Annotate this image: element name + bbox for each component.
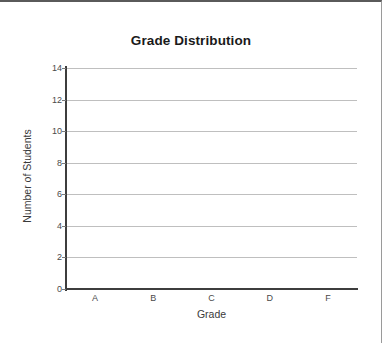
x-axis-tick-label: D bbox=[255, 293, 285, 303]
gridline bbox=[66, 257, 357, 258]
gridline bbox=[66, 68, 357, 69]
y-axis-title: Number of Students bbox=[21, 96, 33, 256]
y-axis-tick-mark bbox=[62, 131, 66, 132]
y-axis-tick-label: 10 bbox=[40, 126, 62, 136]
y-axis-tick-mark bbox=[62, 68, 66, 69]
y-axis-tick-labels: 14121086420 bbox=[36, 2, 62, 343]
x-axis-line bbox=[65, 288, 358, 290]
y-axis-tick-label: 12 bbox=[40, 95, 62, 105]
y-axis-tick-label: 8 bbox=[40, 158, 62, 168]
gridline bbox=[66, 226, 357, 227]
y-axis-tick-label: 0 bbox=[40, 284, 62, 294]
y-axis-tick-label: 6 bbox=[40, 189, 62, 199]
chart-figure-frame: Grade Distribution 14121086420 ABCDF Gra… bbox=[0, 0, 382, 343]
x-axis-title: Grade bbox=[66, 308, 357, 320]
y-axis-tick-mark bbox=[62, 257, 66, 258]
y-axis-tick-label: 2 bbox=[40, 252, 62, 262]
plot-area bbox=[66, 68, 357, 289]
y-axis-tick-label: 14 bbox=[40, 63, 62, 73]
y-axis-tick-mark bbox=[62, 289, 66, 290]
y-axis-tick-label: 4 bbox=[40, 221, 62, 231]
y-axis-tick-mark bbox=[62, 163, 66, 164]
x-axis-tick-label: C bbox=[197, 293, 227, 303]
gridline bbox=[66, 131, 357, 132]
y-axis-tick-mark bbox=[62, 194, 66, 195]
gridline bbox=[66, 163, 357, 164]
gridline bbox=[66, 194, 357, 195]
x-axis-tick-label: A bbox=[80, 293, 110, 303]
y-axis-tick-mark bbox=[62, 226, 66, 227]
y-axis-tick-mark bbox=[62, 100, 66, 101]
gridline bbox=[66, 100, 357, 101]
x-axis-tick-label: F bbox=[313, 293, 343, 303]
x-axis-tick-label: B bbox=[138, 293, 168, 303]
